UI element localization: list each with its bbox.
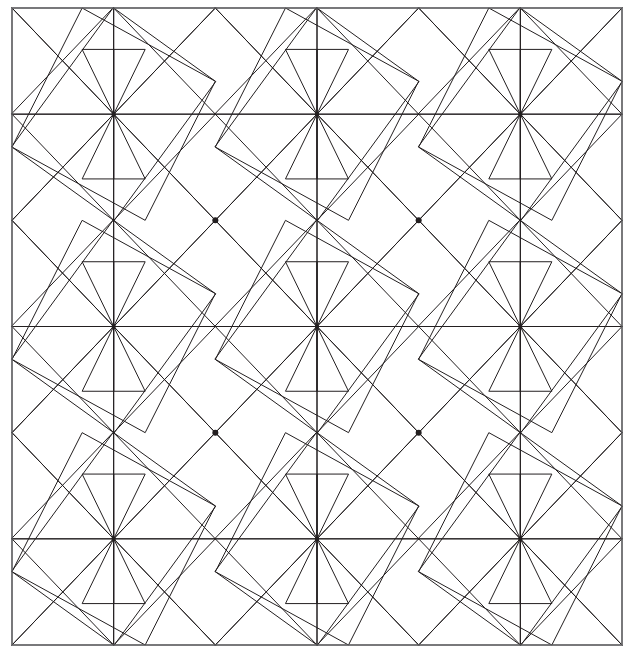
tile-center-node bbox=[315, 324, 319, 328]
tile-center-node bbox=[111, 324, 115, 328]
tile-center-node bbox=[518, 537, 522, 541]
lattice-corner-node bbox=[416, 430, 422, 436]
tile-center-node bbox=[315, 537, 319, 541]
tiling-svg bbox=[0, 0, 640, 652]
tile-center-node bbox=[518, 324, 522, 328]
lattice-corner-node bbox=[416, 217, 422, 223]
tile-center-node bbox=[111, 537, 115, 541]
pattern-canvas: Geometric Star Tiling Pattern Line-art t… bbox=[0, 0, 640, 652]
lattice-corner-node bbox=[212, 217, 218, 223]
tile-center-node bbox=[315, 112, 319, 116]
lattice-corner-node bbox=[212, 430, 218, 436]
tile-center-node bbox=[518, 112, 522, 116]
tile-center-node bbox=[111, 112, 115, 116]
